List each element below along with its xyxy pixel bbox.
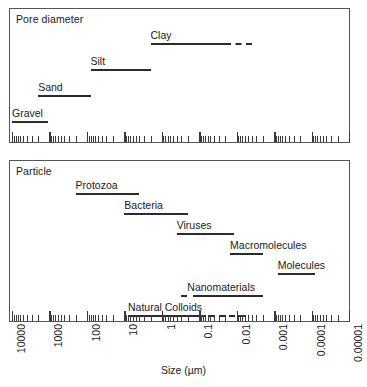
- axis-tick-minor: [173, 136, 174, 142]
- axis-tick-minor: [14, 136, 15, 142]
- axis-tick-minor: [177, 136, 178, 142]
- axis-tick-minor: [163, 136, 164, 142]
- axis-tick-minor: [136, 136, 137, 142]
- axis-tick-minor: [238, 136, 239, 142]
- axis-tick-minor: [144, 315, 145, 321]
- axis-tick-minor: [133, 136, 134, 142]
- particle-plot-area: ProtozoaBacteriaVirusesMacromoleculesMol…: [10, 161, 349, 321]
- particle-panel: Particle ProtozoaBacteriaVirusesMacromol…: [9, 160, 350, 322]
- axis-tick-minor: [205, 136, 206, 142]
- range-bar-solid: [38, 95, 90, 97]
- axis-tick-minor: [331, 315, 332, 321]
- pore-diameter-tick-strip: [10, 131, 349, 142]
- axis-tick-minor: [89, 136, 90, 142]
- axis-tick-minor: [27, 136, 28, 142]
- axis-tick-minor: [181, 136, 182, 142]
- axis-tick-minor: [16, 315, 17, 321]
- axis-tick-minor: [256, 315, 257, 321]
- axis-tick-minor: [323, 315, 324, 321]
- axis-tick-minor: [188, 315, 189, 321]
- axis-tick-minor: [225, 136, 226, 142]
- axis-tick-minor: [168, 315, 169, 321]
- axis-tick-minor: [181, 315, 182, 321]
- axis-tick-minor: [53, 315, 54, 321]
- axis-tick-minor: [32, 315, 33, 321]
- size-axis-title: Size (µm): [0, 364, 367, 376]
- axis-tick-minor: [69, 315, 70, 321]
- axis-tick-minor: [208, 136, 209, 142]
- range-bar-label: Clay: [151, 30, 172, 41]
- range-bar-label: Molecules: [278, 260, 325, 271]
- axis-tick-minor: [317, 136, 318, 142]
- axis-tick-minor: [280, 315, 281, 321]
- axis-tick-minor: [289, 315, 290, 321]
- range-bar-solid: [278, 273, 315, 275]
- axis-tick-minor: [58, 315, 59, 321]
- axis-tick-minor: [238, 315, 239, 321]
- axis-tick-major: [349, 311, 350, 321]
- axis-tick-minor: [102, 136, 103, 142]
- axis-tick-minor: [128, 315, 129, 321]
- axis-tick-minor: [106, 315, 107, 321]
- axis-tick-minor: [263, 315, 264, 321]
- axis-tick-minor: [242, 315, 243, 321]
- axis-tick-minor: [170, 136, 171, 142]
- axis-tick-minor: [98, 315, 99, 321]
- axis-tick-minor: [51, 136, 52, 142]
- axis-tick-minor: [313, 315, 314, 321]
- axis-tick-minor: [282, 315, 283, 321]
- axis-tick-minor: [278, 136, 279, 142]
- axis-tick-minor: [55, 315, 56, 321]
- particle-tick-strip: [10, 310, 349, 321]
- axis-tick-minor: [320, 315, 321, 321]
- range-bar-label: Silt: [91, 56, 106, 67]
- axis-tick-minor: [219, 315, 220, 321]
- axis-tick-label: 0.01: [240, 324, 252, 344]
- axis-tick-minor: [106, 136, 107, 142]
- axis-tick-label: 1000: [52, 324, 64, 347]
- axis-tick-minor: [210, 136, 211, 142]
- range-bar-solid: [76, 193, 140, 195]
- axis-tick-minor: [18, 315, 19, 321]
- axis-tick-minor: [317, 315, 318, 321]
- range-bar-dashed: [225, 43, 251, 45]
- axis-tick-minor: [331, 136, 332, 142]
- axis-tick-minor: [128, 136, 129, 142]
- axis-tick-label: 0.1: [202, 324, 214, 339]
- axis-tick-minor: [276, 315, 277, 321]
- axis-tick-minor: [278, 315, 279, 321]
- axis-tick-minor: [23, 315, 24, 321]
- range-bar-solid: [151, 43, 226, 45]
- axis-tick-minor: [214, 136, 215, 142]
- axis-tick-minor: [252, 315, 253, 321]
- axis-tick-label: 1: [165, 324, 177, 330]
- axis-tick-minor: [64, 136, 65, 142]
- axis-tick-minor: [205, 315, 206, 321]
- axis-tick-minor: [20, 136, 21, 142]
- axis-tick-minor: [144, 136, 145, 142]
- axis-tick-minor: [130, 315, 131, 321]
- range-bar-solid: [177, 233, 234, 235]
- axis-tick-minor: [289, 136, 290, 142]
- axis-tick-minor: [61, 136, 62, 142]
- axis-tick-minor: [93, 136, 94, 142]
- axis-tick-minor: [76, 136, 77, 142]
- axis-tick-minor: [91, 136, 92, 142]
- axis-tick-minor: [188, 136, 189, 142]
- range-bar-solid: [124, 213, 188, 215]
- axis-tick-minor: [136, 315, 137, 321]
- axis-tick-minor: [55, 136, 56, 142]
- range-bar-solid: [230, 253, 263, 255]
- axis-tick-minor: [240, 136, 241, 142]
- axis-tick-minor: [208, 315, 209, 321]
- axis-tick-minor: [95, 136, 96, 142]
- axis-tick-minor: [14, 315, 15, 321]
- range-bar-solid: [12, 121, 48, 123]
- axis-tick-minor: [69, 136, 70, 142]
- axis-tick-minor: [240, 315, 241, 321]
- range-bar-label: Protozoa: [76, 180, 118, 191]
- axis-tick-minor: [313, 136, 314, 142]
- axis-tick-minor: [20, 315, 21, 321]
- axis-tick-minor: [91, 315, 92, 321]
- axis-tick-minor: [201, 136, 202, 142]
